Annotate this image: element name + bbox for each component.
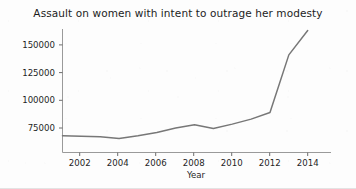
x-tick-label-2014: 2014 — [297, 158, 319, 168]
x-axis-title: Year — [186, 170, 206, 180]
y-tick-label-75000: 75000 — [28, 123, 55, 133]
x-tick-label-2008: 2008 — [183, 158, 205, 168]
plot-area: 150000 125000 100000 75000 2002 2004 200… — [0, 0, 356, 189]
y-tick-label-150000: 150000 — [22, 40, 55, 50]
y-tick-label-125000: 125000 — [22, 68, 55, 78]
chart-figure: Assault on women with intent to outrage … — [0, 0, 356, 189]
x-axis-ticks — [80, 153, 308, 157]
y-axis-ticks — [59, 45, 63, 128]
x-tick-label-2010: 2010 — [221, 158, 243, 168]
x-tick-label-2012: 2012 — [259, 158, 281, 168]
data-line-series-0 — [63, 31, 308, 139]
y-tick-label-100000: 100000 — [22, 95, 55, 105]
x-tick-label-2002: 2002 — [69, 158, 91, 168]
y-axis-tick-labels: 150000 125000 100000 75000 — [22, 40, 55, 133]
x-axis-tick-labels: 2002 2004 2006 2008 2010 2012 2014 — [69, 158, 319, 168]
x-tick-label-2006: 2006 — [145, 158, 167, 168]
x-tick-label-2004: 2004 — [107, 158, 129, 168]
